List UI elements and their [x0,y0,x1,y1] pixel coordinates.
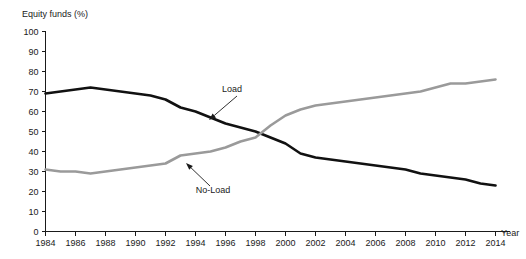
chart-series [46,80,496,186]
y-axis-tick-label: 100 [23,27,38,37]
y-axis-tick-label: 30 [28,167,38,177]
chart-axis-titles: Equity funds (%)Year [22,9,519,238]
series-line-no-load [46,80,496,174]
x-axis-tick-label: 2010 [425,238,445,248]
x-axis-tick-label: 1990 [125,238,145,248]
y-axis-tick-label: 70 [28,87,38,97]
x-axis-tick-label: 2002 [305,238,325,248]
x-axis-tick-label: 2012 [455,238,475,248]
x-axis-tick-label: 2014 [485,238,505,248]
chart-canvas: 0102030405060708090100198419861988199019… [0,0,526,259]
x-axis-tick-label: 1984 [35,238,55,248]
chart-annotations: LoadNo-Load [186,84,242,195]
x-axis-tick-label: 1992 [155,238,175,248]
x-axis-tick-label: 2008 [395,238,415,248]
y-axis-tick-label: 0 [33,227,38,237]
x-axis-title: Year [501,228,519,238]
x-axis-tick-label: 2006 [365,238,385,248]
x-axis-tick-label: 2004 [335,238,355,248]
x-axis-tick-label: 2000 [275,238,295,248]
x-axis-tick-label: 1996 [215,238,235,248]
chart-screenshot: 0102030405060708090100198419861988199019… [0,0,526,259]
y-axis-tick-label: 50 [28,127,38,137]
y-axis-tick-label: 40 [28,147,38,157]
x-axis-tick-label: 1998 [245,238,265,248]
x-axis-tick-label: 1986 [65,238,85,248]
annotation-arrow-load [214,96,237,115]
x-axis-tick-label: 1988 [95,238,115,248]
equity-funds-line-chart: 0102030405060708090100198419861988199019… [0,0,526,259]
y-axis-tick-label: 80 [28,67,38,77]
y-axis-tick-label: 90 [28,47,38,57]
y-axis-tick-label: 60 [28,107,38,117]
y-axis-tick-label: 10 [28,207,38,217]
x-axis-tick-label: 1994 [185,238,205,248]
annotation-label-no-load: No-Load [196,185,231,195]
annotation-arrow-no-load [191,168,210,186]
annotation-label-load: Load [222,84,242,94]
y-axis-title: Equity funds (%) [22,9,88,19]
y-axis-tick-label: 20 [28,187,38,197]
